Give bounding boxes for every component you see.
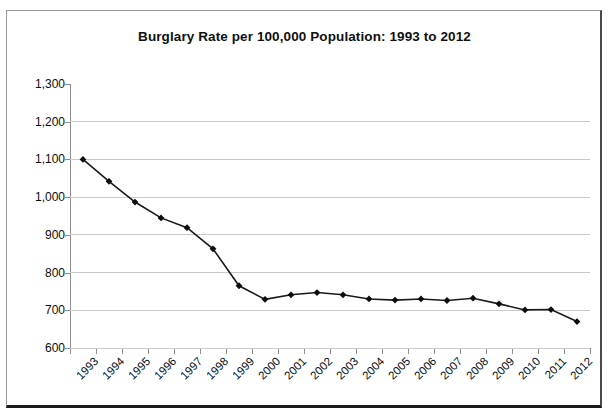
x-tick-mark (122, 349, 123, 354)
x-tick-mark (460, 349, 461, 354)
x-axis-labels: 1993199419951996199719981999200020012002… (70, 355, 591, 410)
data-point-marker (496, 300, 503, 307)
series-line (83, 159, 577, 321)
data-point-marker (340, 291, 347, 298)
data-point-marker (548, 306, 555, 313)
x-tick-mark (330, 349, 331, 354)
data-point-marker (522, 307, 529, 314)
y-tick-label: 1,300 (17, 77, 65, 91)
x-tick-mark (564, 349, 565, 354)
x-tick-mark (304, 349, 305, 354)
y-tick-label: 1,100 (17, 152, 65, 166)
x-tick-mark (278, 349, 279, 354)
x-tick-mark (96, 349, 97, 354)
y-tick-label: 900 (17, 228, 65, 242)
x-tick-mark (148, 349, 149, 354)
data-point-marker (366, 296, 373, 303)
data-point-marker (392, 297, 399, 304)
data-point-marker (444, 297, 451, 304)
data-point-marker (470, 295, 477, 302)
x-tick-mark (70, 349, 71, 354)
x-tick-mark (200, 349, 201, 354)
plot-area (70, 84, 590, 348)
data-point-marker (314, 289, 321, 296)
chart-page: Burglary Rate per 100,000 Population: 19… (0, 0, 609, 418)
y-tick-label: 800 (17, 266, 65, 280)
x-tick-mark (382, 349, 383, 354)
x-tick-mark (226, 349, 227, 354)
y-axis-labels: 6007008009001,0001,1001,2001,300 (10, 84, 65, 348)
y-tick-label: 1,000 (17, 190, 65, 204)
x-tick-mark (512, 349, 513, 354)
x-tick-mark (408, 349, 409, 354)
x-tick-mark (538, 349, 539, 354)
x-tick-mark (252, 349, 253, 354)
x-tick-mark (356, 349, 357, 354)
data-point-marker (418, 296, 425, 303)
data-series-burglary-rate (70, 84, 590, 348)
x-tick-mark (590, 349, 591, 354)
y-tick-label: 1,200 (17, 115, 65, 129)
y-tick-label: 600 (17, 341, 65, 355)
x-tick-mark (434, 349, 435, 354)
data-point-marker (288, 291, 295, 298)
data-point-marker (574, 318, 581, 325)
chart-title: Burglary Rate per 100,000 Population: 19… (0, 29, 609, 44)
y-tick-label: 700 (17, 303, 65, 317)
x-tick-mark (174, 349, 175, 354)
data-point-marker (262, 296, 269, 303)
x-tick-mark (486, 349, 487, 354)
